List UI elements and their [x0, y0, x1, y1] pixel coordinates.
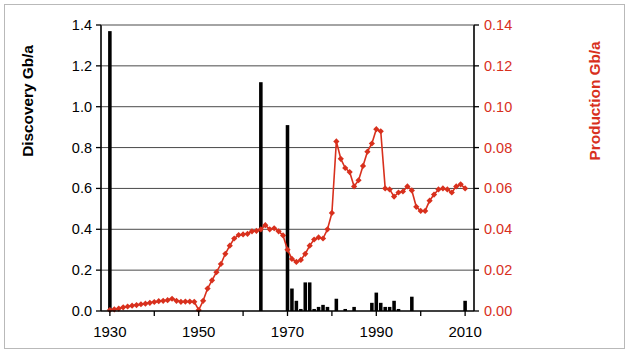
production-marker [422, 208, 428, 214]
discovery-bar [379, 303, 383, 311]
left-tick-label: 1.2 [72, 58, 92, 74]
production-marker [284, 247, 290, 253]
production-marker [369, 140, 375, 146]
production-marker [209, 277, 215, 283]
x-tick-label: 1970 [271, 323, 304, 340]
discovery-bar [335, 299, 339, 311]
x-tick-label: 1930 [93, 323, 126, 340]
left-tick-label: 0.8 [72, 140, 92, 156]
figure-root: Discovery Gb/a Production Gb/a 0.00.20.4… [0, 0, 629, 353]
discovery-bars-group [108, 31, 467, 311]
right-tick-label: 0.02 [484, 262, 512, 278]
discovery-bar [463, 301, 467, 311]
discovery-bar [108, 31, 112, 311]
right-tick-label: 0.12 [484, 58, 512, 74]
production-marker [222, 251, 228, 257]
x-tick-label: 2010 [448, 323, 481, 340]
production-marker [324, 226, 330, 232]
discovery-bar [286, 125, 290, 311]
production-marker [204, 285, 210, 291]
production-marker [440, 185, 446, 191]
discovery-bar [303, 282, 307, 311]
production-marker [200, 298, 206, 304]
discovery-bar [375, 293, 379, 311]
right-tick-label: 0.06 [484, 180, 512, 196]
production-marker [191, 299, 197, 305]
right-tick-label: 0.10 [484, 99, 512, 115]
production-marker [320, 235, 326, 241]
production-marker [333, 138, 339, 144]
production-marker [364, 149, 370, 155]
x-tick-label: 1950 [182, 323, 215, 340]
left-tick-label: 0.0 [72, 303, 92, 319]
discovery-bar [392, 301, 396, 311]
production-marker [382, 185, 388, 191]
right-tick-label: 0.00 [484, 303, 512, 319]
discovery-bar [295, 301, 299, 311]
x-tick-label: 1990 [360, 323, 393, 340]
production-marker [338, 156, 344, 162]
left-tick-labels-group: 0.00.20.40.60.81.01.21.4 [72, 17, 92, 319]
left-tick-label: 1.0 [72, 99, 92, 115]
plot-area: 0.00.20.40.60.81.01.21.4 0.000.020.040.0… [0, 0, 629, 353]
x-tick-labels-group: 19301950197019902010 [93, 323, 482, 340]
discovery-bar [321, 305, 325, 311]
right-tick-label: 0.08 [484, 140, 512, 156]
right-tick-labels-group: 0.000.020.040.060.080.100.120.14 [484, 17, 512, 319]
discovery-bar [308, 282, 312, 311]
production-marker [329, 210, 335, 216]
discovery-bar [290, 289, 294, 311]
left-tick-label: 0.6 [72, 180, 92, 196]
chart-svg: 0.00.20.40.60.81.01.21.4 0.000.020.040.0… [0, 0, 629, 353]
discovery-bar [370, 303, 374, 311]
production-marker [218, 261, 224, 267]
right-tick-label: 0.14 [484, 17, 512, 33]
left-tick-label: 1.4 [72, 17, 92, 33]
left-tick-label: 0.4 [72, 221, 92, 237]
right-tick-label: 0.04 [484, 221, 512, 237]
production-marker [360, 163, 366, 169]
left-tick-label: 0.2 [72, 262, 92, 278]
discovery-bar [410, 297, 414, 311]
discovery-bar [259, 82, 263, 311]
